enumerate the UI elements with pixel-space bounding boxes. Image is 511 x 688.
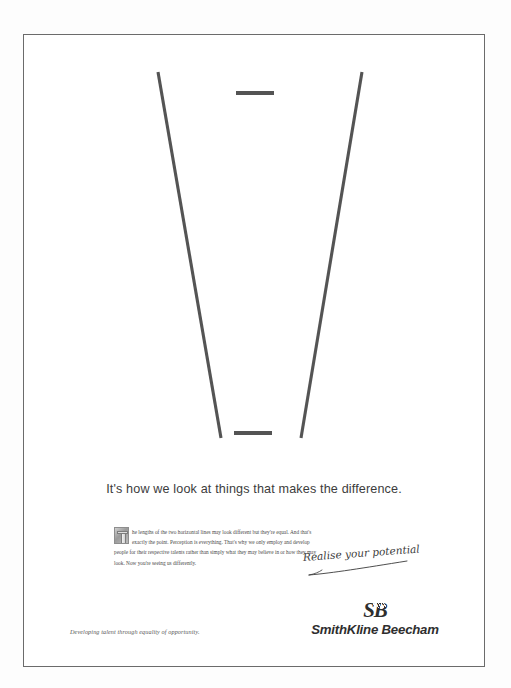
headline: It's how we look at things that makes th…: [23, 482, 485, 496]
logo-wordmark: SmithKline Beecham: [300, 622, 450, 637]
body-paragraph: he lengths of the two horizontal lines m…: [114, 529, 316, 566]
strapline-underline-flourish: [309, 561, 407, 575]
right-converging-line: [301, 72, 362, 438]
ponzo-illusion-figure: [23, 34, 485, 464]
handwritten-strapline: Realise your potential: [303, 549, 423, 579]
left-converging-line: [158, 72, 221, 438]
illustrated-dropcap-t-icon: [114, 527, 129, 544]
footer-tagline: Developing talent through equality of op…: [70, 628, 200, 635]
body-copy-block: he lengths of the two horizontal lines m…: [114, 527, 324, 568]
sb-monogram-icon: SB: [363, 600, 387, 621]
smithkline-beecham-logo: SB SmithKline Beecham: [300, 600, 450, 637]
advertisement-page: It's how we look at things that makes th…: [0, 0, 511, 688]
